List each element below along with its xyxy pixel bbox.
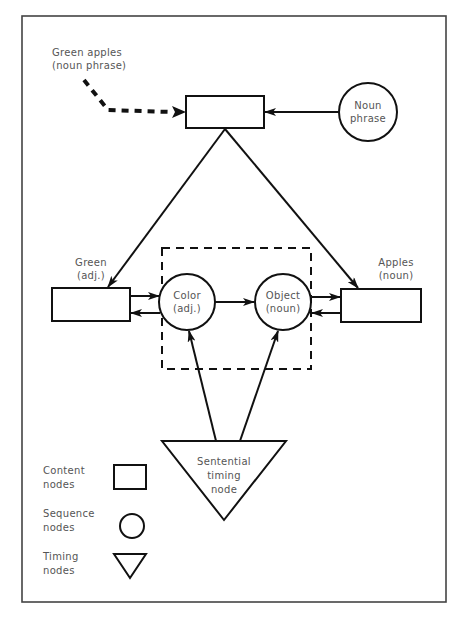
timing-label: Sentential timing node bbox=[184, 455, 264, 497]
edge-timing-to-object bbox=[240, 331, 278, 441]
legend-sequence-line1: Sequence bbox=[43, 507, 95, 521]
legend-rectangle-icon bbox=[114, 465, 146, 489]
timing-line1: Sentential bbox=[184, 455, 264, 469]
input-label-line2: (noun phrase) bbox=[52, 59, 126, 72]
top-content-node bbox=[186, 96, 264, 128]
legend-timing-line2: nodes bbox=[43, 564, 79, 578]
timing-line3: node bbox=[184, 483, 264, 497]
legend-circle-icon bbox=[120, 514, 144, 538]
noun-phrase-label: Noun phrase bbox=[339, 99, 397, 125]
legend-sequence-label: Sequence nodes bbox=[43, 507, 95, 535]
color-label: Color (adj.) bbox=[159, 289, 215, 315]
apples-label: Apples (noun) bbox=[368, 256, 424, 282]
input-label-line1: Green apples bbox=[52, 46, 126, 59]
object-line2: (noun) bbox=[255, 302, 311, 315]
color-line1: Color bbox=[159, 289, 215, 302]
legend-content-line2: nodes bbox=[43, 478, 85, 492]
edge-top-to-green bbox=[108, 129, 225, 287]
color-line2: (adj.) bbox=[159, 302, 215, 315]
legend-content-label: Content nodes bbox=[43, 464, 85, 492]
input-dashed-arrow bbox=[84, 80, 172, 112]
green-content-node bbox=[52, 288, 130, 321]
legend-triangle-icon bbox=[114, 554, 146, 578]
noun-phrase-line2: phrase bbox=[339, 112, 397, 125]
legend-timing-line1: Timing bbox=[43, 550, 79, 564]
input-label: Green apples (noun phrase) bbox=[52, 46, 126, 72]
legend-sequence-line2: nodes bbox=[43, 521, 95, 535]
legend-timing-label: Timing nodes bbox=[43, 550, 79, 578]
noun-phrase-line1: Noun bbox=[339, 99, 397, 112]
timing-line2: timing bbox=[184, 469, 264, 483]
object-line1: Object bbox=[255, 289, 311, 302]
input-arrowhead bbox=[172, 106, 186, 118]
edge-top-to-apples bbox=[225, 129, 358, 288]
green-label: Green (adj.) bbox=[66, 256, 116, 282]
edge-timing-to-color bbox=[189, 331, 216, 441]
apples-content-node bbox=[341, 289, 421, 322]
apples-line2: (noun) bbox=[368, 269, 424, 282]
object-label: Object (noun) bbox=[255, 289, 311, 315]
apples-line1: Apples bbox=[368, 256, 424, 269]
green-line1: Green bbox=[66, 256, 116, 269]
green-line2: (adj.) bbox=[66, 269, 116, 282]
legend-content-line1: Content bbox=[43, 464, 85, 478]
